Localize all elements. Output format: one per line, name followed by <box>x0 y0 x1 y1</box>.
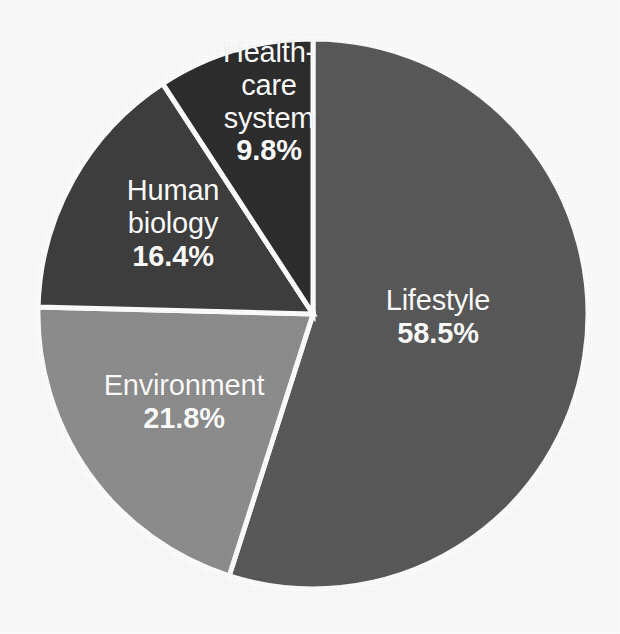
pie-chart: Lifestyle 58.5% Environment 21.8% Human … <box>0 0 620 634</box>
pie-chart-canvas <box>0 0 620 634</box>
pie-slices <box>38 39 588 589</box>
